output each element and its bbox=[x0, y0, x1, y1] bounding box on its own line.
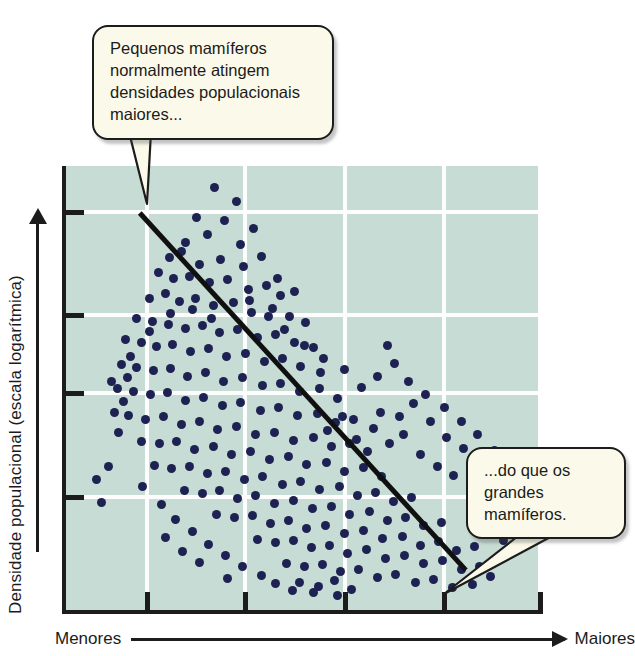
scatter-point bbox=[175, 297, 184, 306]
scatter-point bbox=[264, 312, 273, 321]
scatter-point bbox=[260, 357, 269, 366]
scatter-point bbox=[289, 436, 298, 445]
scatter-point bbox=[117, 360, 126, 369]
scatter-point bbox=[181, 324, 190, 333]
scatter-point bbox=[223, 275, 232, 284]
scatter-point bbox=[124, 411, 133, 420]
scatter-point bbox=[295, 387, 304, 396]
scatter-point bbox=[442, 433, 451, 442]
scatter-point bbox=[371, 488, 380, 497]
scatter-point bbox=[245, 296, 254, 305]
scatter-point bbox=[325, 541, 334, 550]
scatter-point bbox=[322, 458, 331, 467]
scatter-point bbox=[104, 462, 113, 471]
gridline-horizontal bbox=[66, 210, 538, 214]
scatter-point bbox=[302, 524, 311, 533]
scatter-point bbox=[359, 526, 368, 535]
scatter-point bbox=[161, 533, 170, 542]
scatter-point bbox=[284, 516, 293, 525]
scatter-point bbox=[315, 384, 324, 393]
scatter-point bbox=[327, 502, 336, 511]
y-axis-label: Densidade populacional (escala logarítmi… bbox=[6, 275, 26, 614]
scatter-point bbox=[315, 485, 324, 494]
scatter-point bbox=[335, 482, 344, 491]
scatter-point bbox=[186, 347, 195, 356]
scatter-point bbox=[381, 554, 390, 563]
scatter-point bbox=[205, 278, 214, 287]
scatter-point bbox=[188, 527, 197, 536]
scatter-point bbox=[233, 325, 242, 334]
scatter-point bbox=[166, 364, 175, 373]
scatter-point bbox=[167, 464, 176, 473]
scatter-point bbox=[198, 321, 207, 330]
scatter-point bbox=[251, 430, 260, 439]
y-axis-tick bbox=[62, 391, 84, 396]
scatter-point bbox=[323, 426, 332, 435]
scatter-point bbox=[240, 475, 249, 484]
scatter-point bbox=[347, 585, 356, 594]
scatter-point bbox=[309, 433, 318, 442]
scatter-plot-panel bbox=[62, 166, 538, 614]
scatter-point bbox=[362, 545, 371, 554]
scatter-point bbox=[365, 507, 374, 516]
scatter-point bbox=[284, 452, 293, 461]
scatter-point bbox=[215, 328, 224, 337]
scatter-point bbox=[270, 428, 279, 437]
callout-large-mammals-text: ...do que os grandes mamíferos. bbox=[484, 460, 610, 526]
scatter-point bbox=[222, 352, 231, 361]
scatter-point bbox=[246, 447, 255, 456]
scatter-point bbox=[207, 314, 216, 323]
x-axis-tick bbox=[243, 592, 248, 614]
scatter-point bbox=[209, 442, 218, 451]
scatter-point bbox=[137, 437, 146, 446]
scatter-point bbox=[391, 570, 400, 579]
x-axis-tick bbox=[538, 592, 543, 614]
scatter-point bbox=[183, 372, 192, 381]
scatter-point bbox=[276, 291, 285, 300]
scatter-point bbox=[400, 551, 409, 560]
scatter-point bbox=[440, 403, 449, 412]
x-axis-tick bbox=[343, 592, 348, 614]
scatter-point bbox=[340, 529, 349, 538]
scatter-point bbox=[220, 216, 229, 225]
y-axis-label-group: Densidade populacional (escala logarítmi… bbox=[0, 166, 36, 614]
scatter-point bbox=[399, 430, 408, 439]
scatter-point bbox=[249, 224, 258, 233]
scatter-point bbox=[349, 415, 358, 424]
scatter-point bbox=[289, 496, 298, 505]
scatter-point bbox=[280, 325, 289, 334]
scatter-point bbox=[229, 298, 238, 307]
scatter-point bbox=[316, 368, 325, 377]
scatter-point bbox=[146, 390, 155, 399]
scatter-point bbox=[401, 513, 410, 522]
scatter-point bbox=[132, 363, 141, 372]
scatter-point bbox=[157, 500, 166, 509]
scatter-point bbox=[123, 373, 132, 382]
scatter-point bbox=[126, 352, 135, 361]
scatter-point bbox=[154, 268, 163, 277]
scatter-point bbox=[181, 396, 190, 405]
scatter-point bbox=[262, 281, 271, 290]
scatter-point bbox=[181, 238, 190, 247]
scatter-point bbox=[253, 333, 262, 342]
scatter-point bbox=[159, 412, 168, 421]
x-axis-arrow-icon bbox=[131, 638, 564, 641]
scatter-point bbox=[290, 338, 299, 347]
callout-large-mammals: ...do que os grandes mamíferos. bbox=[466, 447, 626, 539]
scatter-point bbox=[271, 330, 280, 339]
scatter-point bbox=[195, 558, 204, 567]
scatter-point bbox=[257, 571, 266, 580]
scatter-point bbox=[373, 573, 382, 582]
scatter-point bbox=[300, 562, 309, 571]
scatter-point bbox=[258, 381, 267, 390]
scatter-point bbox=[132, 314, 141, 323]
scatter-point bbox=[201, 368, 210, 377]
scatter-point bbox=[309, 343, 318, 352]
scatter-point bbox=[452, 546, 461, 555]
x-axis-tick bbox=[442, 592, 447, 614]
scatter-point bbox=[357, 383, 366, 392]
scatter-point bbox=[301, 318, 310, 327]
scatter-point bbox=[164, 320, 173, 329]
scatter-point bbox=[165, 253, 174, 262]
scatter-point bbox=[470, 542, 479, 551]
